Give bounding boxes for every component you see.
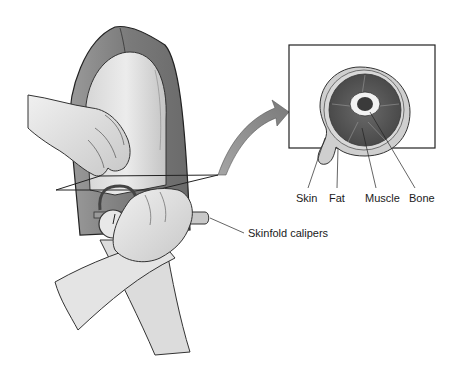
illustration-canvas — [0, 0, 469, 376]
label-muscle: Muscle — [365, 192, 400, 204]
label-bone: Bone — [409, 192, 435, 204]
label-skin: Skin — [296, 192, 317, 204]
zoom-arrow — [218, 100, 289, 175]
label-fat: Fat — [329, 192, 345, 204]
label-skinfold-calipers: Skinfold calipers — [248, 227, 328, 239]
forearm — [55, 240, 190, 355]
arm-cross-section — [318, 67, 410, 164]
skinfold-illustration: Skin Fat Muscle Bone Skinfold calipers — [0, 0, 469, 376]
